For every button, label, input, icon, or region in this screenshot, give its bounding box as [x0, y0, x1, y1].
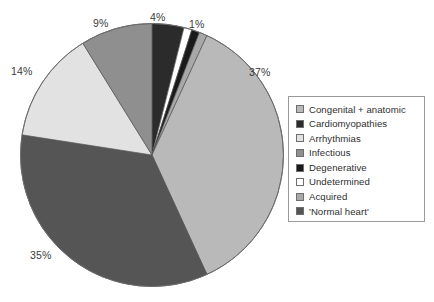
legend-swatch-icon — [296, 164, 304, 172]
legend-item-label: Degenerative — [309, 163, 367, 173]
legend-item-label: Acquired — [309, 192, 347, 202]
legend-item: Infectious — [296, 146, 424, 161]
legend-item: 'Normal heart' — [296, 204, 424, 219]
pie-svg — [19, 22, 285, 288]
legend-swatch-icon — [296, 149, 304, 157]
pie-label-acquired: 1% — [189, 19, 204, 30]
pie-label-normal-heart: 35% — [30, 250, 51, 261]
legend-item-label: Arrhythmias — [309, 134, 361, 144]
legend-swatch-icon — [296, 193, 304, 201]
legend-item-label: Infectious — [309, 148, 351, 158]
legend-item-label: Congenital + anatomic — [309, 105, 406, 115]
legend-swatch-icon — [296, 207, 304, 215]
pie-label-infectious: 9% — [93, 18, 108, 29]
legend-swatch-icon — [296, 120, 304, 128]
legend-item-label: 'Normal heart' — [309, 207, 369, 217]
pie-slice-group — [21, 24, 284, 287]
legend-item: Degenerative — [296, 160, 424, 175]
pie-label-arrhythmias: 14% — [11, 66, 32, 77]
chart-legend: Congenital + anatomicCardiomyopathiesArr… — [288, 96, 425, 222]
legend-item: Arrhythmias — [296, 131, 424, 146]
pie-label-cardiomyopathies: 4% — [150, 12, 165, 23]
legend-item-label: Undetermined — [309, 177, 370, 187]
pie-chart-figure: 4% 1% 37% 35% 14% 9% Congenital + anatom… — [0, 0, 434, 302]
pie-chart-graphic — [19, 22, 285, 288]
pie-label-congenital-anatomic: 37% — [249, 67, 270, 78]
legend-swatch-icon — [296, 178, 304, 186]
legend-item: Congenital + anatomic — [296, 102, 424, 117]
legend-item: Undetermined — [296, 175, 424, 190]
legend-swatch-icon — [296, 134, 304, 142]
legend-swatch-icon — [296, 105, 304, 113]
legend-item: Acquired — [296, 190, 424, 205]
legend-item-label: Cardiomyopathies — [309, 119, 387, 129]
legend-item: Cardiomyopathies — [296, 117, 424, 132]
